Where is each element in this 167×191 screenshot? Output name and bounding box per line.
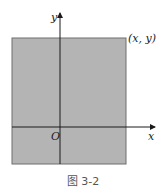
origin-label: O <box>51 130 60 143</box>
x-axis-label: x <box>148 130 155 143</box>
shaded-region <box>12 38 126 164</box>
corner-point-label: (x, y) <box>128 32 156 45</box>
coordinate-diagram: y x O (x, y) 图 3-2 <box>0 0 167 191</box>
y-axis-label: y <box>50 11 58 24</box>
figure-caption: 图 3-2 <box>67 175 99 188</box>
